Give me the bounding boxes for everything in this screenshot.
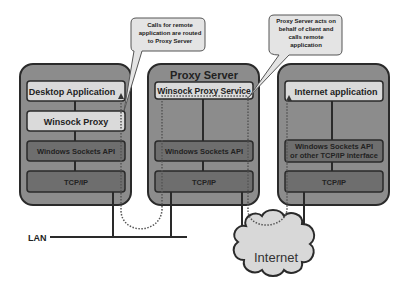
desktop-application-label: Desktop Application: [29, 87, 116, 97]
callout-left-line2: application are routed: [139, 30, 202, 36]
callout-left-line1: Calls for remote: [147, 22, 193, 28]
internet-application-label: Internet application: [294, 87, 377, 97]
winsock-proxy-label: Winsock Proxy: [44, 117, 108, 127]
proxy-server-node: Proxy Server Winsock Proxy Service Windo…: [148, 64, 259, 205]
proxy-server-title: Proxy Server: [170, 69, 239, 81]
callout-right-line4: application: [290, 42, 322, 48]
client-node: Desktop Application Winsock Proxy Window…: [20, 64, 131, 205]
windows-sockets-api-label: Windows Sockets API: [37, 147, 115, 156]
callout-right-line3: calls remote: [288, 34, 324, 40]
proxy-tcpip-label: TCP/IP: [192, 178, 216, 187]
callout-left-line3: to Proxy Server: [148, 38, 193, 44]
right-tcpip-label: TCP/IP: [322, 178, 346, 187]
callout-right-line1: Proxy Server acts on: [276, 18, 336, 24]
lan-label: LAN: [28, 233, 47, 243]
callout-right-line2: behalf of client and: [279, 26, 334, 32]
internet-host-node: Internet application Windows Sockets API…: [278, 64, 389, 205]
tcpip-interface-label-line2: or other TCP/IP interface: [290, 151, 378, 160]
proxy-architecture-diagram: Desktop Application Winsock Proxy Window…: [0, 0, 412, 307]
tcpip-label: TCP/IP: [64, 178, 88, 187]
tcpip-interface-label-line1: Windows Sockets API: [295, 142, 373, 151]
internet-cloud: Internet: [234, 210, 314, 276]
internet-label: Internet: [254, 250, 298, 265]
proxy-windows-sockets-api-label: Windows Sockets API: [165, 147, 243, 156]
winsock-proxy-service-label: Winsock Proxy Service: [157, 86, 251, 96]
